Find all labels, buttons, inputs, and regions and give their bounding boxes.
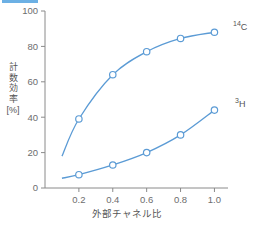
series-line-14C: [62, 32, 215, 156]
y-tick-label: 100: [22, 5, 38, 16]
series-label-h3-base: H: [239, 99, 246, 109]
x-axis-label: 外部チャネル比: [0, 206, 254, 220]
x-tick-label: 0.2: [72, 194, 85, 205]
y-tick-label: 80: [27, 41, 38, 52]
chart-container: 0204060801000.20.40.60.81.0 計 数 効 率 [%] …: [0, 0, 254, 225]
data-point-3H-0: [76, 172, 82, 178]
data-series: [62, 29, 218, 178]
y-tick-label: 20: [27, 147, 38, 158]
x-tick-label: 0.6: [140, 194, 153, 205]
data-point-14C-0: [76, 116, 82, 122]
y-axis-label-char-3: 率: [3, 94, 23, 105]
x-tick-label: 0.4: [106, 194, 119, 205]
y-tick-label: 40: [27, 112, 38, 123]
series-label-h3: 3H: [235, 97, 245, 109]
data-point-3H-4: [211, 107, 217, 113]
data-point-3H-2: [143, 149, 149, 155]
x-tick-label: 0.8: [174, 194, 187, 205]
data-point-3H-1: [110, 162, 116, 168]
tick-marks: [41, 11, 214, 192]
y-axis-label: 計 数 効 率 [%]: [3, 62, 23, 116]
axis-lines: [45, 11, 228, 188]
y-tick-label: 60: [27, 76, 38, 87]
x-tick-label: 1.0: [208, 194, 221, 205]
data-point-14C-2: [143, 49, 149, 55]
series-line-3H: [62, 110, 215, 178]
axes: [45, 11, 228, 188]
data-point-14C-3: [177, 35, 183, 41]
data-point-14C-4: [211, 29, 217, 35]
y-axis-label-char-1: 数: [3, 73, 23, 84]
data-point-14C-1: [110, 72, 116, 78]
series-label-c14-superscript: 14: [233, 20, 241, 27]
y-tick-label: 0: [33, 182, 38, 193]
y-axis-label-char-0: 計: [3, 62, 23, 73]
y-axis-unit: [%]: [3, 105, 23, 116]
series-label-c14-base: C: [241, 22, 248, 32]
series-label-c14: 14C: [233, 20, 247, 32]
plot-area: 0204060801000.20.40.60.81.0: [0, 0, 254, 225]
y-axis-label-char-2: 効: [3, 83, 23, 94]
data-point-3H-3: [177, 132, 183, 138]
tick-labels: 0204060801000.20.40.60.81.0: [22, 5, 221, 205]
